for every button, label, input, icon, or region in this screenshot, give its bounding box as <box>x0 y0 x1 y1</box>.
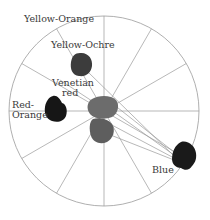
blue-swatch <box>172 142 196 170</box>
red-orange-swatch <box>45 96 67 122</box>
label-blue: Blue <box>152 164 174 175</box>
label-red-orange-line2: Orange <box>12 109 48 120</box>
color-wheel-diagram: Yellow-Orange Yellow-Ochre Venetian red … <box>0 0 210 220</box>
yellow-ochre-swatch <box>71 53 92 76</box>
label-yellow-orange: Yellow-Orange <box>23 13 94 24</box>
venetian-red-upper-swatch <box>88 96 119 119</box>
label-venetian-red-line2: red <box>62 87 78 98</box>
label-yellow-ochre: Yellow-Ochre <box>50 39 115 50</box>
